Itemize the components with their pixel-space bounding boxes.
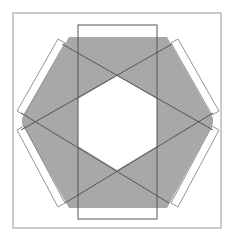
diagram-canvas (0, 0, 232, 239)
diagram-svg (0, 0, 232, 239)
